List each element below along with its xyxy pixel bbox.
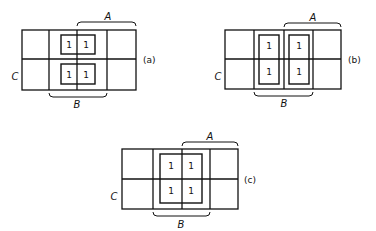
kmap-a-var-b: B <box>74 99 81 110</box>
kmap-b-var-a: A <box>309 12 317 23</box>
kmap-c-grid <box>122 149 238 209</box>
kmap-a-brace-a <box>77 22 136 26</box>
kmap-c-cell-1-1: 1 <box>168 186 174 196</box>
kmap-b-cell-0-2: 1 <box>296 41 302 51</box>
kmap-b-grid <box>225 30 341 89</box>
kmap-b-cell-0-1: 1 <box>266 41 272 51</box>
kmap-c-cell-0-1: 1 <box>168 161 174 171</box>
kmap-c-cell-1-2: 1 <box>188 186 194 196</box>
kmap-c-label: (c) <box>244 175 256 185</box>
kmap-b-var-b: B <box>281 98 288 109</box>
kmap-c-var-c: C <box>111 191 118 202</box>
kmap-c-var-a: A <box>206 131 214 142</box>
kmap-b-label: (b) <box>348 55 361 65</box>
kmap-a-var-c: C <box>12 71 19 82</box>
kmap-a-var-a: A <box>104 11 112 22</box>
kmap-c-brace-a <box>182 142 238 146</box>
karnaugh-maps-figure: 1 1 1 1 A B C (a) 1 1 1 1 A B C (b) <box>0 0 376 231</box>
kmap-a-cell-1-2: 1 <box>83 70 89 80</box>
kmap-a-label: (a) <box>143 55 156 65</box>
kmap-a-grid <box>22 30 136 90</box>
kmap-a-brace-b <box>49 93 107 97</box>
kmap-c-var-b: B <box>178 219 185 230</box>
kmap-a-cell-0-1: 1 <box>66 40 72 50</box>
kmap-c: 1 1 1 1 A B C (c) <box>111 131 256 230</box>
kmap-c-cell-0-2: 1 <box>188 161 194 171</box>
kmap-b-brace-b <box>254 92 313 96</box>
kmap-c-brace-b <box>153 212 210 216</box>
kmap-b-brace-a <box>284 23 341 27</box>
kmap-b-cell-1-1: 1 <box>266 67 272 77</box>
kmap-b-cell-1-2: 1 <box>296 67 302 77</box>
kmap-b: 1 1 1 1 A B C (b) <box>215 12 361 109</box>
kmap-a: 1 1 1 1 A B C (a) <box>12 11 156 110</box>
kmap-a-cell-1-1: 1 <box>66 70 72 80</box>
kmap-b-var-c: C <box>215 71 222 82</box>
kmap-a-cell-0-2: 1 <box>83 40 89 50</box>
